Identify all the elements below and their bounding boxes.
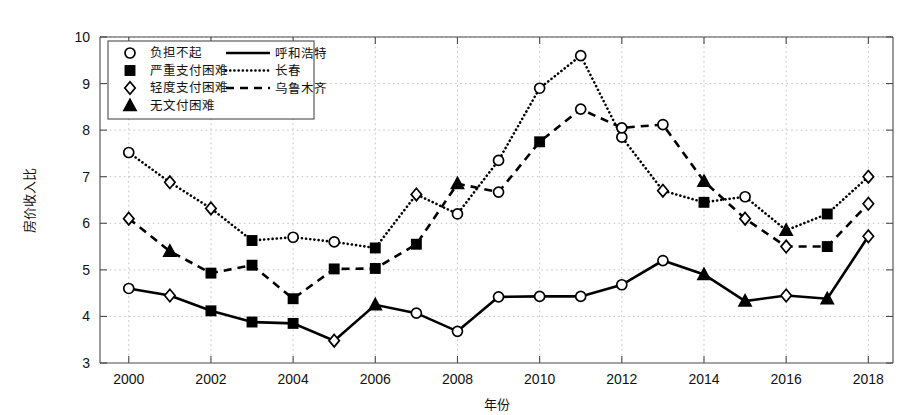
data-point	[535, 137, 544, 146]
x-tick-label: 2004	[278, 371, 309, 387]
x-tick-label: 2000	[113, 371, 144, 387]
legend-marker-label: 轻度支付困难	[150, 80, 228, 95]
data-point	[863, 171, 873, 183]
data-point	[206, 269, 215, 278]
data-point	[494, 292, 504, 302]
data-point	[576, 104, 586, 114]
data-point	[124, 283, 134, 293]
line-chart: 3456789102000200220042006200820102012201…	[0, 0, 905, 415]
legend-marker-label: 严重支付困难	[150, 63, 228, 78]
data-point	[289, 319, 298, 328]
data-point	[781, 289, 791, 301]
data-point	[411, 188, 421, 200]
data-point	[658, 120, 668, 130]
series-line	[129, 236, 869, 340]
data-point	[289, 294, 298, 303]
data-point	[369, 299, 381, 310]
data-point	[165, 176, 175, 188]
y-tick-label: 7	[82, 169, 90, 185]
x-tick-label: 2010	[524, 371, 555, 387]
data-point	[617, 280, 627, 290]
data-point	[863, 198, 873, 210]
legend-marker-label: 无文付困难	[150, 98, 215, 113]
data-point	[412, 240, 421, 249]
chart-container: 3456789102000200220042006200820102012201…	[0, 0, 905, 415]
data-point	[411, 308, 421, 318]
series-1	[129, 236, 869, 340]
y-axis-title: 房价收入比	[22, 168, 37, 233]
data-point	[124, 147, 134, 157]
x-tick-label: 2018	[853, 371, 884, 387]
data-point	[247, 317, 256, 326]
y-tick-label: 4	[82, 308, 90, 324]
x-axis-title: 年份	[484, 397, 510, 412]
data-point	[288, 232, 298, 242]
data-point	[576, 51, 586, 61]
data-point	[699, 198, 708, 207]
data-point	[452, 209, 462, 219]
data-point	[658, 256, 668, 266]
y-tick-label: 5	[82, 262, 90, 278]
data-point	[535, 83, 545, 93]
data-point	[740, 192, 750, 202]
x-tick-label: 2008	[442, 371, 473, 387]
x-tick-label: 2016	[771, 371, 802, 387]
data-point	[247, 261, 256, 270]
x-tick-label: 2012	[606, 371, 637, 387]
data-point	[781, 240, 791, 252]
legend-marker-circle	[125, 48, 135, 58]
legend-line-label: 乌鲁木齐	[275, 81, 327, 96]
data-point	[494, 155, 504, 165]
y-tick-label: 10	[74, 29, 90, 45]
data-point	[452, 326, 462, 336]
data-point	[535, 291, 545, 301]
data-point	[823, 242, 832, 251]
legend-marker-label: 负担不起	[150, 45, 202, 60]
data-point	[658, 184, 668, 196]
data-point	[617, 123, 627, 133]
data-point	[247, 236, 256, 245]
data-point	[206, 306, 215, 315]
data-point	[165, 289, 175, 301]
x-tick-label: 2006	[360, 371, 391, 387]
x-tick-label: 2014	[688, 371, 719, 387]
legend-marker-square	[125, 66, 134, 75]
data-point	[451, 178, 463, 189]
data-point	[576, 291, 586, 301]
data-point	[494, 187, 504, 197]
legend-line-label: 长春	[275, 63, 301, 78]
data-point	[371, 264, 380, 273]
y-tick-label: 6	[82, 215, 90, 231]
legend-line-label: 呼和浩特	[275, 46, 327, 61]
y-tick-label: 8	[82, 122, 90, 138]
y-tick-label: 9	[82, 76, 90, 92]
data-point	[329, 237, 339, 247]
data-point	[330, 264, 339, 273]
x-tick-label: 2002	[195, 371, 226, 387]
data-point	[371, 243, 380, 252]
y-tick-label: 3	[82, 355, 90, 371]
data-point	[823, 209, 832, 218]
